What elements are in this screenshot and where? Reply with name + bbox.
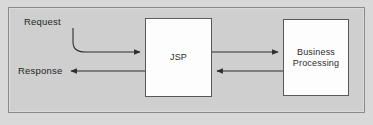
- node-business-processing-label-line2: Processing: [293, 58, 340, 68]
- node-jsp-label: JSP: [170, 52, 187, 63]
- node-business-processing: Business Processing: [283, 19, 349, 96]
- node-business-processing-label-line1: Business: [297, 47, 335, 57]
- request-label: Request: [24, 16, 61, 27]
- diagram-canvas: JSP Business Processing Request Response: [0, 0, 373, 125]
- node-business-processing-label: Business Processing: [293, 47, 340, 69]
- node-jsp: JSP: [145, 18, 212, 97]
- response-label: Response: [18, 65, 62, 76]
- request-arrow: [73, 28, 140, 52]
